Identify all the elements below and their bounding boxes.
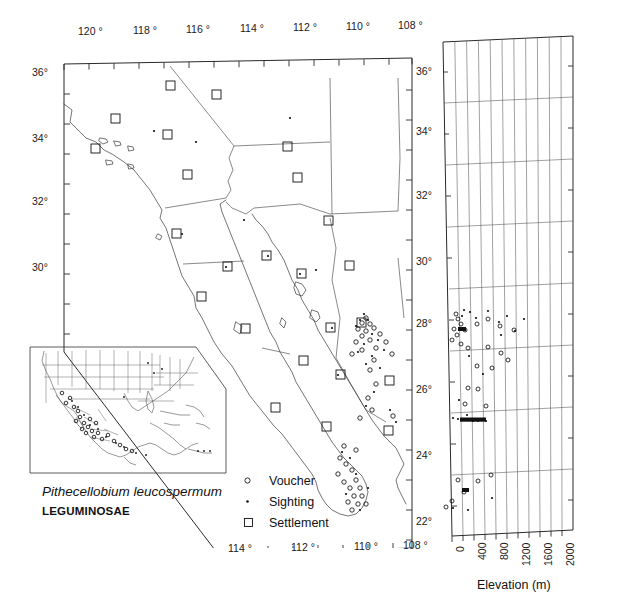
lat-label-left-30: 30°: [32, 262, 48, 273]
lon-label-top-116: 116 °: [186, 24, 210, 35]
map-figure: 120 ° 118 ° 116 ° 114 ° 112 ° 110 ° 108 …: [0, 0, 628, 606]
lon-label-top-110: 110 °: [346, 21, 370, 32]
lat-label-left-34: 34°: [32, 133, 48, 144]
elev-xtick-2000: 2000: [565, 543, 576, 566]
legend-label-voucher: Voucher: [269, 474, 315, 488]
species-scientific-name: Pithecellobium leucospermum: [42, 484, 222, 499]
lat-label-left-32: 32°: [32, 196, 48, 207]
lon-label-top-112: 112 °: [293, 22, 317, 33]
inset-map: [28, 345, 228, 475]
elev-xtick-1600: 1600: [543, 543, 554, 566]
elevation-axis-title: Elevation (m): [477, 578, 551, 592]
lat-label-left-36: 36°: [32, 67, 48, 78]
lon-label-bottom-108: 108 °: [403, 540, 428, 551]
lon-label-bottom-110: 110 °: [354, 541, 378, 552]
elev-xtick-800: 800: [499, 542, 510, 560]
latitude-ticks-left: [64, 94, 70, 334]
voucher-icon: [243, 476, 261, 485]
settlement-icon: [243, 517, 261, 528]
elev-xtick-1200: 1200: [521, 543, 532, 566]
sighting-icon: [243, 497, 261, 506]
legend-item-settlement: Settlement: [243, 512, 383, 533]
legend-label-sighting: Sighting: [269, 495, 314, 509]
lon-label-bottom-114: 114 °: [228, 543, 252, 554]
longitude-ticks-top: [64, 58, 412, 70]
inset-occurrence-markers: [60, 391, 134, 453]
lon-label-top-118: 118 °: [133, 25, 157, 36]
elev-xtick-400: 400: [477, 542, 488, 560]
lon-label-bottom-112: 112 °: [291, 542, 315, 553]
elev-xtick-0: 0: [455, 546, 466, 552]
lon-label-top-120: 120 °: [78, 26, 103, 37]
cropped-header-text: [0, 0, 628, 6]
species-family-name: LEGUMINOSAE: [42, 505, 130, 517]
lon-label-top-108: 108 °: [398, 20, 423, 31]
lon-label-top-114: 114 °: [240, 23, 264, 34]
legend-item-sighting: Sighting: [243, 491, 383, 512]
legend: Voucher Sighting Settlement: [243, 470, 383, 533]
legend-item-voucher: Voucher: [243, 470, 383, 491]
elevation-chart-panel: [430, 18, 628, 548]
latitude-ticks-right: [406, 90, 412, 540]
inset-state-lines: [42, 350, 198, 441]
legend-label-settlement: Settlement: [269, 516, 329, 530]
